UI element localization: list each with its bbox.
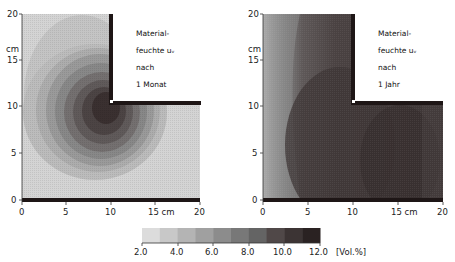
colorbar-tick-4: 4.0 (170, 248, 184, 257)
colorbar-swatches (0, 0, 455, 262)
colorbar-swatch (142, 228, 160, 243)
colorbar-unit: [Vol.%] (336, 248, 366, 257)
colorbar-swatch (178, 228, 196, 243)
colorbar-tick-6: 6.0 (205, 248, 219, 257)
colorbar-swatch (160, 228, 178, 243)
colorbar-swatch (267, 228, 285, 243)
colorbar-tick-8: 8.0 (241, 248, 255, 257)
colorbar-tick-10: 10.0 (273, 248, 292, 257)
colorbar-swatch (284, 228, 302, 243)
colorbar-swatch (231, 228, 249, 243)
colorbar-swatch (213, 228, 231, 243)
colorbar-swatch (195, 228, 213, 243)
colorbar-tick-2: 2.0 (134, 248, 148, 257)
colorbar-tick-12: 12.0 (309, 248, 328, 257)
colorbar-swatch (249, 228, 267, 243)
colorbar-swatch (302, 228, 320, 243)
colorbar: 2.0 4.0 6.0 8.0 10.0 12.0 [Vol.%] (0, 0, 455, 262)
